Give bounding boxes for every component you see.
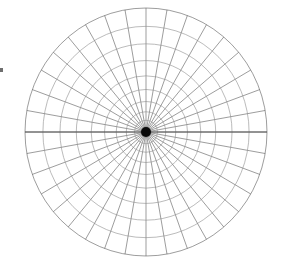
diagram-canvas	[0, 0, 290, 272]
polar-grid-svg	[0, 0, 290, 272]
center-hub	[141, 127, 151, 137]
left-edge-tick-icon	[0, 68, 3, 72]
